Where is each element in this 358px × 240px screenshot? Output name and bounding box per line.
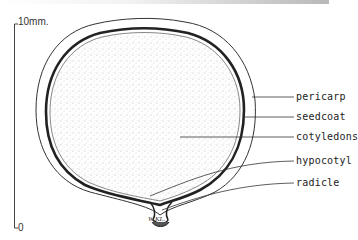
label-hypocotyl: hypocotyl <box>296 155 352 167</box>
scale-top-label: 10mm. <box>18 16 49 27</box>
cotyledons-region <box>50 33 240 202</box>
label-pericarp: pericarp <box>296 91 346 103</box>
scale-bottom-label: 0 <box>18 222 24 233</box>
label-radicle: radicle <box>296 177 340 189</box>
scale-bar <box>15 24 19 228</box>
label-seedcoat: seedcoat <box>296 111 346 123</box>
artist-signature: W.KL. <box>148 215 165 223</box>
label-cotyledons: cotyledons <box>296 131 358 143</box>
